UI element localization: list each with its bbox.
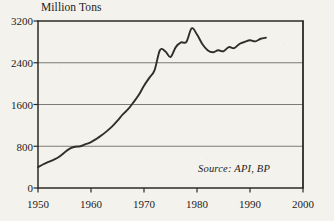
chart-figure: Million Tons 3200 2400 1600 800 0 1950 1… xyxy=(0,0,334,221)
gridlines xyxy=(38,63,303,147)
chart-plot-area xyxy=(0,0,334,221)
